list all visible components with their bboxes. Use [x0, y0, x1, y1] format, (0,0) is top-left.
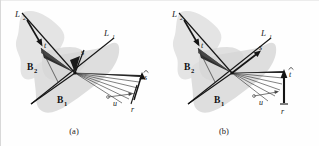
contact-point — [73, 71, 76, 74]
figure-root: L 2 L 1 B 2 B 1 t s u r s — [0, 0, 319, 146]
label-line-l2-sub: 2 — [23, 15, 26, 21]
label-body-b2: B — [27, 62, 34, 72]
label-vector-shat: s — [144, 73, 147, 82]
label-body-b2-sub: 2 — [191, 67, 194, 74]
panel-b: L 2 L 1 B 2 B 1 t s u r t — [155, 0, 319, 146]
label-line-l1-sub: 1 — [269, 34, 272, 40]
caption-panel-b: (b) — [204, 126, 244, 136]
vector-that-arrowhead — [281, 69, 288, 78]
label-body-b2-sub: 2 — [34, 67, 37, 74]
label-line-l1: L — [103, 28, 109, 38]
label-vector-that: t — [289, 70, 292, 79]
label-line-l1-sub: 1 — [112, 34, 115, 40]
label-line-l1: L — [260, 28, 266, 38]
label-line-l2-sub: 2 — [180, 15, 183, 21]
label-body-b1: B — [214, 95, 221, 105]
panel-a: L 2 L 1 B 2 B 1 t s u r s — [0, 0, 160, 146]
label-body-b1-sub: 1 — [64, 100, 67, 107]
label-body-b2: B — [184, 62, 191, 72]
label-vector-s: s — [259, 43, 262, 52]
label-vector-u: u — [113, 99, 117, 108]
contact-point — [230, 71, 233, 74]
label-vector-u: u — [259, 98, 263, 107]
caption-panel-a: (a) — [54, 126, 94, 136]
label-line-l2: L — [14, 9, 20, 19]
label-vector-s: s — [81, 48, 84, 57]
label-vector-r: r — [131, 105, 135, 114]
label-body-b1: B — [57, 95, 64, 105]
vector-u-arrowhead — [274, 90, 279, 94]
label-line-l2: L — [171, 9, 177, 19]
label-body-b1-sub: 1 — [221, 100, 224, 107]
label-vector-r: r — [281, 107, 285, 116]
